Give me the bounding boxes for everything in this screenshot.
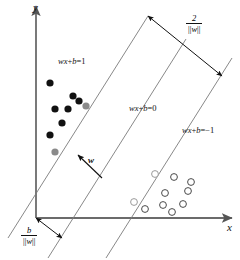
data-point-filled (51, 105, 58, 112)
data-point-filled (82, 102, 89, 109)
bias-offset-arrow-origin (36, 218, 49, 228)
positive-margin-line (8, 16, 148, 238)
data-point-open (169, 209, 176, 216)
margin-width-denominator: ||w|| (186, 25, 202, 34)
data-point-open (185, 188, 192, 195)
svm-margin-figure: y x wx+b=1 wx+b=0 wx+b=−1 w 2 ||w|| b ||… (0, 0, 240, 260)
bias-offset-arrow-boundary (49, 228, 62, 238)
margin-width-fraction: 2 ||w|| (186, 14, 202, 34)
data-point-open (142, 206, 149, 213)
margin-width-arrow-right (185, 46, 222, 76)
margin-width-arrow-left (148, 16, 185, 46)
data-point-filled (75, 97, 82, 104)
bias-offset-numerator: b (21, 226, 37, 235)
negative-margin-label: wx+b=−1 (182, 126, 214, 135)
data-point-open (160, 202, 167, 209)
data-point-filled (58, 119, 65, 126)
data-point-open (131, 199, 138, 206)
margin-width-numerator: 2 (186, 14, 202, 23)
bias-offset-fraction: b ||w|| (21, 226, 37, 246)
x-axis-label: x (227, 222, 232, 233)
decision-boundary-line (48, 39, 186, 258)
data-point-open (171, 174, 178, 181)
data-point-filled (51, 148, 58, 155)
weight-vector-label: w (88, 156, 94, 165)
data-point-filled (46, 131, 53, 138)
data-point-open (152, 171, 159, 178)
data-points-layer (46, 79, 194, 215)
data-point-open (188, 179, 195, 186)
series-0 (46, 79, 82, 138)
data-point-open (180, 201, 187, 208)
data-point-filled (64, 105, 71, 112)
y-axis-label: y (33, 2, 38, 13)
data-point-filled (69, 92, 76, 99)
decision-boundary-label: wx+b=0 (129, 104, 157, 113)
data-point-open (162, 190, 169, 197)
bias-offset-denominator: ||w|| (21, 237, 37, 246)
negative-margin-line (106, 58, 232, 258)
series-3 (131, 171, 159, 206)
positive-margin-label: wx+b=1 (58, 57, 86, 66)
series-2 (142, 174, 195, 216)
data-point-filled (46, 79, 53, 86)
